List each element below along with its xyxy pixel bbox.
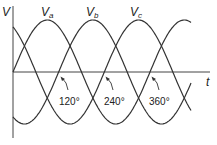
svg-text:360°: 360° [149, 96, 170, 107]
svg-text:Va: Va [41, 5, 54, 20]
annotation-360: 360° [149, 77, 170, 108]
label-vb: Vb [86, 5, 99, 20]
label-va: Va [41, 5, 54, 20]
x-axis-label: t [206, 75, 210, 89]
annotation-240: 240° [104, 77, 125, 108]
three-phase-diagram: V t Va Vb Vc 120° 240° 360° [0, 0, 217, 145]
svg-text:Vc: Vc [130, 5, 142, 20]
label-vc: Vc [130, 5, 142, 20]
svg-text:240°: 240° [104, 96, 125, 107]
annotation-120: 120° [59, 77, 80, 108]
y-axis-label: V [2, 5, 11, 19]
svg-text:120°: 120° [59, 96, 80, 107]
svg-text:Vb: Vb [86, 5, 99, 20]
